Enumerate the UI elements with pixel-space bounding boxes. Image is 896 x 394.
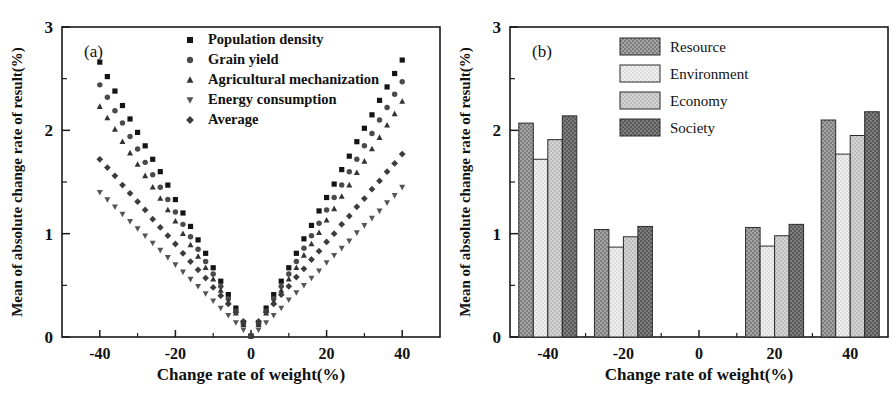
data-point-diamond (346, 213, 353, 220)
data-point-triangle-up (369, 146, 375, 152)
data-point-square (400, 57, 405, 62)
legend-label-society: Society (670, 120, 715, 136)
data-point-square (218, 279, 223, 284)
y-axis-tick-label: 0 (493, 328, 502, 347)
data-point-diamond (217, 292, 224, 299)
data-point-circle (127, 134, 132, 139)
data-point-triangle-up (377, 134, 383, 140)
x-axis-tick-label: 40 (842, 345, 858, 362)
data-point-square (211, 265, 216, 270)
data-point-diamond (195, 266, 202, 273)
bar-group-20 (746, 224, 804, 337)
legend-label-grain-yield: Grain yield (208, 51, 279, 67)
x-axis-tick-label: -40 (537, 345, 558, 362)
data-point-diamond (127, 190, 134, 197)
data-point-diamond (112, 172, 119, 179)
data-point-circle (112, 108, 117, 113)
data-point-triangle-up (135, 161, 141, 167)
data-point-circle (316, 221, 321, 226)
data-point-triangle-up (301, 252, 307, 258)
data-point-triangle-down (142, 233, 148, 239)
legend-swatch-environment (620, 65, 660, 82)
data-point-circle (331, 195, 336, 200)
data-point-circle (324, 207, 329, 212)
data-point-square (203, 251, 208, 256)
data-point-diamond (369, 186, 376, 193)
x-axis-tick-label: 0 (247, 345, 255, 362)
data-point-circle (339, 182, 344, 187)
data-point-triangle-up (112, 126, 118, 132)
data-point-circle (210, 271, 215, 276)
data-point-triangle-up (188, 242, 194, 248)
data-point-square (150, 157, 155, 162)
data-point-square (309, 223, 314, 228)
data-point-square (143, 143, 148, 148)
data-point-square (279, 279, 284, 284)
data-point-circle (399, 79, 404, 84)
legend-label-average: Average (208, 111, 259, 127)
data-point-diamond (134, 198, 141, 205)
bar-group--20 (594, 226, 652, 337)
data-point-circle (188, 234, 193, 239)
data-point-circle (362, 143, 367, 148)
data-point-triangle-up (172, 218, 178, 224)
data-point-triangle-up (308, 241, 314, 247)
data-point-circle (120, 120, 125, 125)
data-point-diamond (119, 182, 126, 189)
data-point-square (173, 197, 178, 202)
data-point-square (369, 112, 374, 117)
data-point-triangle-down (188, 277, 194, 283)
data-point-square (97, 60, 102, 65)
bar-economy (548, 140, 563, 337)
data-point-circle (203, 259, 208, 264)
data-point-triangle-down (165, 255, 171, 261)
legend-label-environment: Environment (670, 66, 749, 82)
bar-society (562, 116, 577, 337)
data-point-triangle-down (157, 248, 163, 254)
data-point-triangle-down (150, 241, 156, 247)
data-point-diamond (142, 207, 149, 214)
data-point-square (112, 88, 117, 93)
bar-economy (850, 136, 865, 338)
data-point-triangle-up (346, 182, 352, 188)
x-axis-tick-label: 20 (767, 345, 783, 362)
data-point-circle (187, 57, 193, 63)
data-point-diamond (338, 221, 345, 228)
data-point-triangle-up (165, 207, 171, 213)
legend-label-economy: Economy (670, 93, 728, 109)
x-axis-tick-label: 20 (319, 345, 335, 362)
data-point-triangle-down (339, 246, 345, 252)
series-average (96, 151, 405, 340)
data-point-triangle-down (135, 226, 141, 232)
data-point-square (127, 116, 132, 121)
bar-resource (519, 123, 534, 337)
data-point-diamond (331, 230, 338, 237)
data-point-triangle-up (399, 98, 405, 104)
data-point-triangle-up (97, 103, 103, 109)
data-point-circle (377, 117, 382, 122)
data-point-diamond (323, 239, 330, 246)
data-point-circle (294, 259, 299, 264)
data-point-square (188, 224, 193, 229)
legend-swatch-society (620, 119, 660, 136)
data-point-square (165, 183, 170, 188)
data-point-circle (384, 105, 389, 110)
data-point-circle (286, 271, 291, 276)
data-point-triangle-up (180, 230, 186, 236)
data-point-triangle-up (119, 138, 125, 144)
data-point-triangle-down (97, 190, 103, 196)
data-point-diamond (293, 274, 300, 281)
data-point-triangle-up (384, 122, 390, 128)
data-point-diamond (225, 301, 232, 308)
data-point-circle (369, 131, 374, 136)
data-point-square (294, 251, 299, 256)
data-point-triangle-down (195, 284, 201, 290)
data-point-square (158, 169, 163, 174)
data-point-diamond (104, 164, 111, 171)
data-point-triangle-down (119, 212, 125, 218)
data-point-circle (180, 222, 185, 227)
data-point-triangle-down (256, 327, 262, 333)
data-point-triangle-up (324, 217, 330, 223)
data-point-triangle-down (210, 298, 216, 304)
data-point-diamond (202, 275, 209, 282)
